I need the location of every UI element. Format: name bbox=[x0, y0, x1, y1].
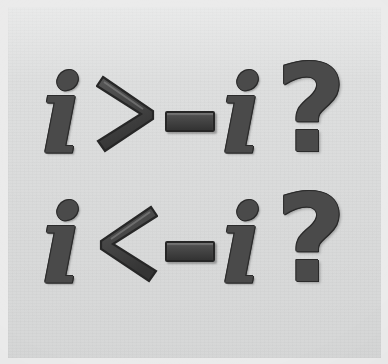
glyph-variable-i: i bbox=[42, 61, 83, 169]
image-canvas: i bbox=[0, 0, 388, 364]
expression-row-2: i bbox=[0, 180, 388, 302]
glyph-minus-sign bbox=[165, 111, 215, 132]
glyph-less-than bbox=[96, 201, 158, 285]
glyph-variable-i: i bbox=[222, 61, 263, 169]
glyph-question-mark: ? bbox=[276, 178, 347, 300]
glyph-question-mark: ? bbox=[276, 48, 347, 170]
glyph-minus-sign bbox=[165, 241, 215, 262]
expression-row-1: i bbox=[0, 50, 388, 172]
glyph-greater-than bbox=[96, 71, 158, 155]
glyph-variable-i: i bbox=[42, 191, 83, 299]
glyph-variable-i: i bbox=[222, 191, 263, 299]
